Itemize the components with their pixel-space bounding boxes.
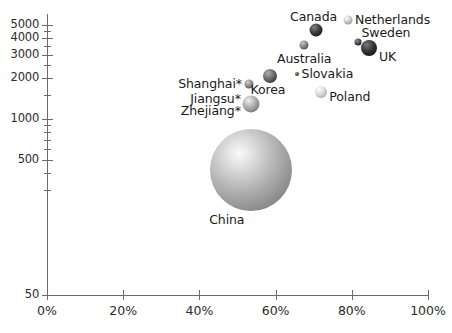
x-axis-tick-label: 60% <box>262 303 290 318</box>
y-axis-line <box>47 14 48 296</box>
y-axis-minor-tick <box>44 149 51 150</box>
x-axis-line <box>47 295 429 296</box>
y-axis-minor-tick <box>44 140 51 141</box>
y-axis-tick-label-wrap: 1000 <box>0 119 39 120</box>
bubble-netherlands <box>343 16 352 25</box>
y-axis-minor-tick <box>44 125 51 126</box>
y-axis-tick <box>42 119 53 120</box>
x-axis-tick-label: 0% <box>37 303 57 318</box>
x-axis-tick <box>352 290 353 300</box>
point-label-australia: Australia <box>277 51 331 66</box>
y-axis-tick-label-wrap: 2000 <box>0 78 39 79</box>
y-axis-tick-label: 2000 <box>11 70 39 84</box>
x-axis-tick <box>47 290 48 300</box>
x-axis-tick <box>123 290 124 300</box>
bubble-sweden <box>354 39 361 46</box>
y-axis-tick-label: 50 <box>25 287 39 301</box>
y-axis-minor-tick <box>44 132 51 133</box>
point-label-shanghai: Shanghai* <box>178 76 242 91</box>
y-axis-tick-label: 1000 <box>11 111 39 125</box>
y-axis-tick-label-wrap: 3000 <box>0 55 39 56</box>
point-label-canada: Canada <box>290 9 337 24</box>
x-axis-tick <box>428 290 429 300</box>
point-label-slovakia: Slovakia <box>302 66 354 81</box>
bubble-uk <box>361 40 377 56</box>
y-axis-tick <box>42 78 53 79</box>
y-axis-tick-label: 500 <box>18 152 39 166</box>
bubble-canada <box>309 23 322 36</box>
bubble-china <box>210 129 292 211</box>
x-axis-tick-label: 80% <box>338 303 366 318</box>
point-label-china: China <box>209 212 244 227</box>
point-label-zhejiang: Zhejiang* <box>181 103 241 118</box>
y-axis-tick-label-wrap: 50 <box>0 295 39 296</box>
bubble-chart: 5000400030002000100050050 0%20%40%60%80%… <box>0 0 452 333</box>
x-axis-tick <box>199 290 200 300</box>
x-axis-tick-label: 100% <box>410 303 446 318</box>
y-axis-tick-label-wrap: 4000 <box>0 38 39 39</box>
y-axis-tick <box>42 25 53 26</box>
point-label-sweden: Sweden <box>362 25 411 40</box>
bubble-jiangsu <box>242 96 259 113</box>
y-axis-minor-tick <box>44 65 51 66</box>
point-label-korea: Korea <box>250 82 285 97</box>
y-axis-minor-tick <box>44 190 51 191</box>
y-axis-tick <box>42 160 53 161</box>
y-axis-tick-label: 3000 <box>11 47 39 61</box>
y-axis-tick-label-wrap: 5000 <box>0 25 39 26</box>
bubble-australia <box>300 40 309 49</box>
y-axis-minor-tick <box>44 46 51 47</box>
x-axis-tick-label: 20% <box>109 303 137 318</box>
y-axis-tick-label: 5000 <box>11 17 39 31</box>
bubble-slovakia <box>295 72 299 76</box>
point-label-poland: Poland <box>329 89 370 104</box>
x-axis-tick <box>276 290 277 300</box>
x-axis-tick-label: 40% <box>185 303 213 318</box>
point-label-uk: UK <box>379 49 396 64</box>
y-axis-tick <box>42 38 53 39</box>
y-axis-tick-label-wrap: 500 <box>0 160 39 161</box>
y-axis-minor-tick <box>44 31 51 32</box>
y-axis-tick <box>42 55 53 56</box>
y-axis-minor-tick <box>44 95 51 96</box>
bubble-korea <box>263 69 277 83</box>
y-axis-tick-label: 4000 <box>11 30 39 44</box>
bubble-poland <box>315 86 327 98</box>
y-axis-minor-tick <box>44 173 51 174</box>
